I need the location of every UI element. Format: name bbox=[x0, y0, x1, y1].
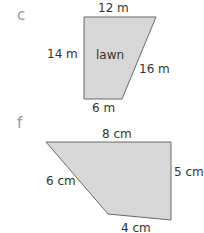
diagram-canvas: c 12 m 14 m lawn 16 m 6 m f 8 cm 5 cm 6 … bbox=[0, 0, 204, 233]
side-label-right: 5 cm bbox=[174, 165, 204, 179]
side-label-bottom: 6 m bbox=[92, 101, 115, 115]
side-label-top: 12 m bbox=[98, 1, 129, 15]
part-label-f: f bbox=[17, 114, 23, 132]
side-label-left: 14 m bbox=[47, 47, 78, 61]
part-label-c: c bbox=[17, 6, 25, 24]
region-label-lawn: lawn bbox=[96, 48, 124, 62]
side-label-slant: 6 cm bbox=[46, 174, 76, 188]
figure-f: f 8 cm 5 cm 6 cm 4 cm bbox=[17, 114, 204, 233]
side-label-slant: 16 m bbox=[139, 62, 170, 76]
side-label-bottom: 4 cm bbox=[121, 221, 151, 233]
side-label-top: 8 cm bbox=[102, 127, 132, 141]
figure-c: c 12 m 14 m lawn 16 m 6 m bbox=[17, 1, 170, 115]
